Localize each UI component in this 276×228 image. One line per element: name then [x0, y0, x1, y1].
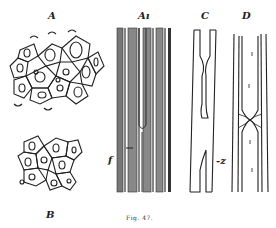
figure-47: [0, 0, 276, 228]
panel-d-label: D: [242, 11, 251, 21]
figure-caption: Fig. 47.: [126, 214, 153, 221]
panel-a1-label: Aı: [138, 11, 150, 21]
panel-d-cells: [232, 34, 268, 192]
panel-a-label: A: [48, 11, 56, 21]
panel-a-cells: [10, 30, 104, 110]
panel-a1-fibers: [117, 28, 171, 192]
panel-b-label: B: [46, 210, 54, 220]
annotation-z: -z: [216, 156, 226, 166]
panel-c-label: C: [201, 11, 209, 21]
panel-c-cell: [190, 30, 216, 192]
annotation-f: f: [108, 155, 112, 165]
panel-b-cells: [18, 136, 82, 190]
